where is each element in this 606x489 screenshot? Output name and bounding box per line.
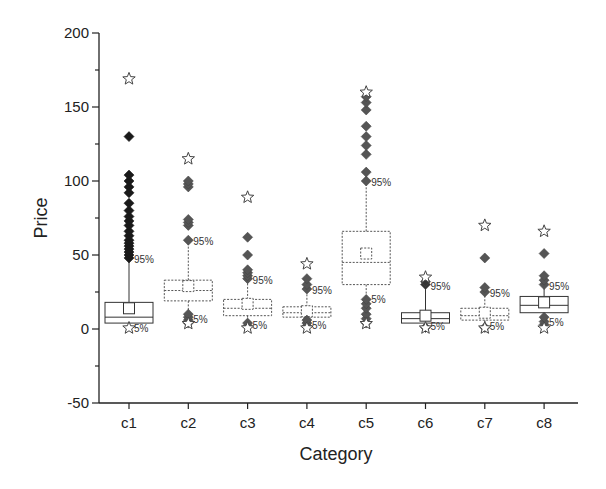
x-axis-title: Category bbox=[299, 444, 372, 464]
p5-label: 5% bbox=[312, 320, 327, 331]
box-c5: 95%5% bbox=[342, 86, 391, 329]
p5-label: 5% bbox=[134, 323, 149, 334]
extreme-star-marker bbox=[538, 225, 550, 237]
mean-marker bbox=[420, 310, 431, 321]
outlier-marker bbox=[124, 198, 134, 208]
outlier-marker bbox=[124, 170, 134, 180]
mean-marker bbox=[479, 307, 490, 318]
x-tick-label: c8 bbox=[536, 414, 552, 431]
y-tick-label: 150 bbox=[64, 98, 89, 115]
box-c6: 95%5% bbox=[402, 271, 451, 334]
box-c2: 95%5% bbox=[164, 152, 213, 328]
y-tick-label: 200 bbox=[64, 24, 89, 41]
y-tick-label: 50 bbox=[72, 246, 89, 263]
p95-label: 95% bbox=[431, 281, 451, 292]
mean-marker bbox=[539, 297, 550, 308]
box-series: 95%5%95%5%95%5%95%5%95%5%95%5%95%5%95%5% bbox=[105, 72, 569, 333]
p95-label: 95% bbox=[371, 177, 391, 188]
x-axis: c1c2c3c4c5c6c7c8 bbox=[99, 403, 578, 431]
mean-marker bbox=[242, 298, 253, 309]
y-tick-label: 100 bbox=[64, 172, 89, 189]
box-c8: 95%5% bbox=[520, 225, 569, 333]
x-tick-label: c6 bbox=[418, 414, 434, 431]
outlier-marker bbox=[183, 235, 193, 245]
mean-marker bbox=[124, 303, 135, 314]
y-axis: -50050100150200 bbox=[64, 24, 99, 411]
extreme-star-marker bbox=[301, 257, 313, 269]
p95-label: 95% bbox=[134, 254, 154, 265]
p5-label: 5% bbox=[431, 321, 446, 332]
outlier-marker bbox=[539, 249, 549, 259]
x-tick-label: c5 bbox=[358, 414, 374, 431]
x-tick-label: c3 bbox=[240, 414, 256, 431]
p95-label: 95% bbox=[312, 285, 332, 296]
box-c1: 95%5% bbox=[105, 72, 154, 333]
box-plot-chart: -50050100150200 c1c2c3c4c5c6c7c8 95%5%95… bbox=[0, 0, 606, 489]
x-tick-label: c7 bbox=[477, 414, 493, 431]
y-tick-label: 0 bbox=[81, 320, 89, 337]
y-axis-title: Price bbox=[31, 197, 51, 238]
p95-label: 95% bbox=[549, 281, 569, 292]
outlier-marker bbox=[243, 250, 253, 260]
x-tick-label: c4 bbox=[299, 414, 315, 431]
y-tick-label: -50 bbox=[67, 394, 89, 411]
outlier-marker bbox=[480, 253, 490, 263]
outlier-marker bbox=[302, 274, 312, 284]
p5-label: 5% bbox=[549, 317, 564, 328]
outlier-marker bbox=[361, 167, 371, 177]
x-tick-label: c1 bbox=[121, 414, 137, 431]
box-c7: 95%5% bbox=[461, 219, 510, 333]
mean-marker bbox=[361, 248, 372, 259]
outlier-marker bbox=[361, 132, 371, 142]
outlier-marker bbox=[124, 132, 134, 142]
p95-label: 95% bbox=[490, 288, 510, 299]
mean-marker bbox=[183, 281, 194, 292]
box-c4: 95%5% bbox=[283, 257, 332, 333]
p5-label: 5% bbox=[490, 321, 505, 332]
p5-label: 5% bbox=[193, 314, 208, 325]
p5-label: 5% bbox=[253, 320, 268, 331]
outlier-marker bbox=[361, 121, 371, 131]
p95-label: 95% bbox=[253, 275, 273, 286]
extreme-star-marker bbox=[182, 152, 194, 164]
extreme-star-marker bbox=[241, 191, 253, 203]
extreme-star-marker bbox=[479, 219, 491, 231]
outlier-marker bbox=[243, 232, 253, 242]
extreme-star-marker bbox=[123, 72, 135, 84]
p5-label: 5% bbox=[371, 294, 386, 305]
box-c3: 95%5% bbox=[224, 191, 273, 333]
p95-label: 95% bbox=[193, 236, 213, 247]
x-tick-label: c2 bbox=[180, 414, 196, 431]
